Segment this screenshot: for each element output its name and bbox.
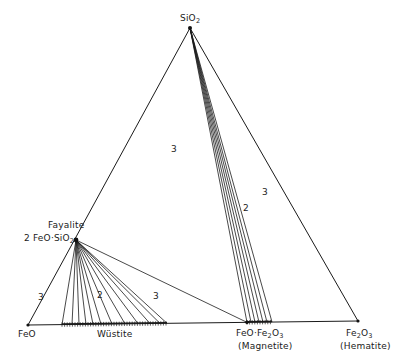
- region-phase-count-label: 3: [153, 291, 159, 301]
- point-magnetite: [245, 321, 249, 325]
- solid-solution-hatching: [62, 320, 272, 327]
- tie-line-silica-magnetite: [190, 28, 272, 322]
- phase-label-magnetite-formula: FeO·Fe2O3: [236, 328, 284, 342]
- tie-line-fayalite-wustite: [76, 240, 138, 324]
- tie-line-silica-magnetite: [190, 28, 259, 322]
- region-phase-count-label: 2: [243, 203, 249, 213]
- phase-label-fayalite-name: Fayalite: [48, 220, 84, 231]
- tie-line-fayalite-wustite: [76, 240, 150, 324]
- tie-line-silica-magnetite: [190, 28, 267, 322]
- edge-sio2-feo: [28, 28, 190, 325]
- point-feo: [26, 323, 29, 326]
- vertex-label-hematite: (Hematite): [340, 341, 391, 352]
- tie-line-fayalite-wustite: [76, 240, 167, 323]
- tie-line-fayalite-wustite: [76, 240, 112, 324]
- tie-line-silica-magnetite: [190, 28, 247, 322]
- composition-points: [26, 26, 359, 327]
- tie-line-silica-magnetite: [190, 28, 263, 322]
- vertex-label-sio2: SiO2: [180, 13, 200, 27]
- phase-label-fayalite-formula: 2 FeO·SiO2: [24, 233, 74, 247]
- point-fe2o3: [356, 319, 359, 322]
- vertex-label-feo: FeO: [18, 329, 36, 340]
- phase-label-wustite: Wüstite: [97, 329, 132, 340]
- tie-line-silica-magnetite: [190, 28, 251, 322]
- edge-sio2-fe2o3: [190, 28, 358, 321]
- tie-line-fayalite-magnetite: [76, 240, 247, 322]
- tie-lines: [62, 28, 272, 325]
- phase-label-magnetite-name: (Magnetite): [238, 341, 293, 352]
- ternary-diagram: [0, 0, 405, 363]
- vertex-label-fe2o3: Fe2O3: [346, 328, 373, 342]
- region-phase-count-label: 3: [171, 144, 177, 154]
- region-phase-count-label: 3: [262, 187, 268, 197]
- point-fayalite: [74, 238, 79, 243]
- region-phase-count-label: 2: [97, 290, 103, 300]
- tie-line-silica-magnetite: [190, 28, 255, 322]
- region-phase-count-label: 3: [38, 292, 44, 302]
